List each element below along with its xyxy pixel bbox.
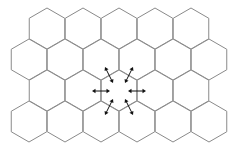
hexagon-cells: [11, 8, 227, 142]
hexagonal-grid-diagram: [0, 0, 238, 151]
